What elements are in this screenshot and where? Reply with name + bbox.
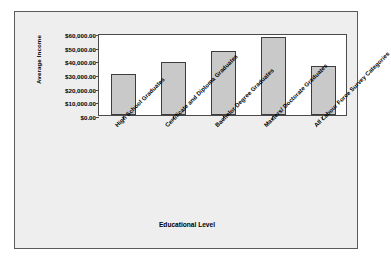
y-axis-tick-label: $30,000.00 <box>47 73 96 80</box>
y-axis-tick-mark <box>96 49 99 50</box>
y-axis-tick-mark <box>96 35 99 36</box>
y-axis-tick-mark <box>96 62 99 63</box>
y-axis-tick-mark <box>96 103 99 104</box>
y-axis-title: Average Income <box>35 28 42 92</box>
y-axis-tick-label: $20,000.00 <box>47 86 96 93</box>
y-axis-tick-label: $60,000.00 <box>47 32 96 39</box>
y-axis-tick-label: $50,000.00 <box>47 45 96 52</box>
chart-canvas: Average Income $0.00$10,000.00$20,000.00… <box>14 11 358 249</box>
y-axis-tick-mark <box>96 76 99 77</box>
y-axis-tick-mark <box>96 117 99 118</box>
y-axis-tick-label: $10,000.00 <box>47 100 96 107</box>
x-axis-title: Educational Level <box>15 221 359 228</box>
y-axis-tick-mark <box>96 90 99 91</box>
y-axis-tick-label: $0.00 <box>47 114 96 121</box>
y-axis-tick-label: $40,000.00 <box>47 59 96 66</box>
y-axis-tick-labels: $0.00$10,000.00$20,000.00$30,000.00$40,0… <box>47 34 96 126</box>
